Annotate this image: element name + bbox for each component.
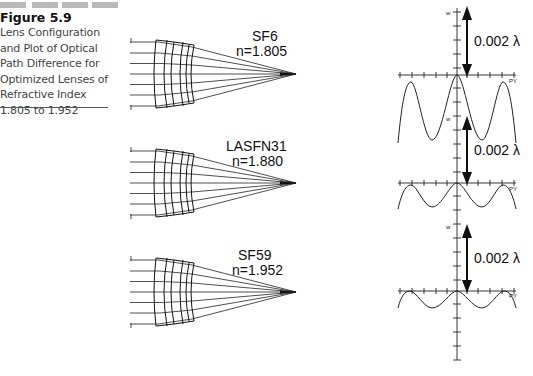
- lens-glass-label: LASFN31: [226, 138, 287, 154]
- lens-index-label: n=1.880: [232, 153, 283, 169]
- lens-glass-label: SF6: [252, 28, 278, 44]
- lens-glass-label: SF59: [238, 247, 272, 263]
- figure-canvas: SF6 n=1.805 LASFN31 n=1.880 SF59 n=1.952: [0, 0, 533, 376]
- x-axis-label: PY: [509, 293, 517, 299]
- scale-label: 0.002 λ: [474, 142, 520, 158]
- scale-label: 0.002 λ: [474, 33, 520, 49]
- scale-label: 0.002 λ: [474, 250, 520, 266]
- y-axis-label: w: [445, 116, 451, 122]
- y-axis-label: w: [445, 10, 451, 16]
- x-axis-label: PY: [509, 78, 517, 84]
- opd-plot-sf6: 0.002 λ w PY: [398, 6, 520, 143]
- x-axis-label: PY: [509, 186, 517, 192]
- y-axis-label: w: [445, 224, 451, 230]
- lens-index-label: n=1.805: [236, 43, 287, 59]
- lens-index-label: n=1.952: [232, 262, 283, 278]
